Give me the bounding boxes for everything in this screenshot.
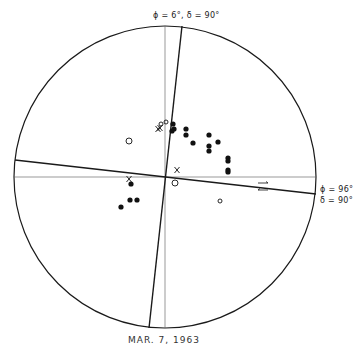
open-circle	[218, 199, 222, 203]
cross-marker	[175, 167, 180, 173]
filled-dot	[206, 148, 211, 153]
filled-dot	[206, 132, 211, 137]
right-axis-delta-label: δ = 90°	[320, 196, 353, 205]
filled-dot	[225, 169, 230, 174]
date-caption: MAR. 7, 1963	[128, 335, 200, 345]
filled-dot	[118, 204, 123, 209]
filled-dot	[128, 181, 133, 186]
arrow-marker	[258, 182, 268, 184]
open-circle	[164, 120, 168, 124]
filled-dot	[134, 197, 139, 202]
filled-dot	[127, 197, 132, 202]
filled-dot	[169, 128, 174, 133]
right-axis-phi-label: ϕ = 96°	[320, 185, 353, 194]
filled-dot	[183, 132, 188, 137]
filled-dot	[225, 158, 230, 163]
open-circle	[126, 138, 132, 144]
top-axis-label: ϕ = 6°, δ = 90°	[153, 11, 220, 20]
filled-dot	[190, 140, 195, 145]
filled-dot	[206, 143, 211, 148]
open-circle	[172, 180, 178, 186]
compression-dots	[118, 121, 230, 209]
filled-dot	[183, 126, 188, 131]
filled-dot	[170, 121, 175, 126]
focal-mechanism-diagram	[0, 0, 355, 354]
filled-dot	[215, 139, 220, 144]
